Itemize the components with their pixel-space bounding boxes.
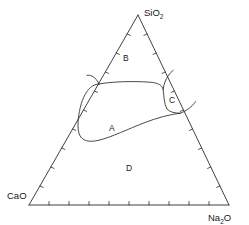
vertex-label-na2o: Na2O	[208, 212, 231, 225]
ticks-bottom-edge	[49, 202, 209, 206]
axis-ticks	[40, 34, 220, 205]
boundary-region-c-upper	[163, 70, 173, 89]
vertex-label-cao: CaO	[7, 190, 27, 201]
boundary-a-left-hook	[87, 75, 99, 84]
ternary-diagram-canvas: SiO2 CaO Na2O B C A D	[0, 0, 249, 225]
phase-boundaries	[78, 70, 196, 141]
vertex-labels: SiO2 CaO Na2O	[7, 7, 231, 225]
triangle-edges	[29, 15, 229, 205]
ticks-left-edge	[40, 34, 130, 187]
vertex-label-sio2-subscript: 2	[160, 13, 164, 20]
boundary-region-a	[78, 82, 181, 142]
region-label-b: B	[123, 53, 129, 63]
vertex-label-sio2: SiO2	[144, 7, 164, 20]
region-label-d: D	[126, 163, 132, 173]
vertex-label-na2o-main: Na	[208, 212, 221, 223]
region-label-c: C	[169, 95, 175, 105]
ticks-right-edge	[144, 34, 220, 187]
boundary-region-c-lower	[181, 102, 196, 114]
vertex-label-na2o-suffix: O	[224, 212, 231, 223]
ternary-phase-diagram: SiO2 CaO Na2O B C A D	[0, 0, 249, 225]
region-label-a: A	[109, 123, 115, 133]
vertex-label-sio2-main: SiO	[144, 7, 160, 18]
